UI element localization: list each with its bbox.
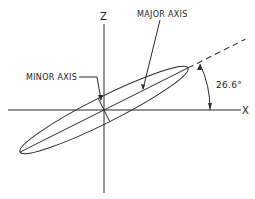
ellipse-axes-diagram: Z X 26.6° MAJOR AXIS MINOR AXIS [0,0,255,199]
minor-axis-label: MINOR AXIS [26,73,77,82]
x-axis-label: X [242,105,249,116]
major-axis-leader [143,20,160,89]
major-axis-extension-dashed [188,39,245,68]
ellipse-group [14,28,251,164]
minor-axis-leader [79,77,101,100]
major-axis-label: MAJOR AXIS [137,10,188,19]
major-axis-arrow-icon [141,84,145,90]
angle-label: 26.6° [216,80,242,90]
angle-arrow-bottom-icon [208,103,212,110]
z-axis-label: Z [100,11,107,22]
